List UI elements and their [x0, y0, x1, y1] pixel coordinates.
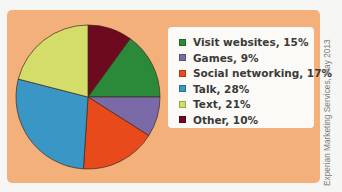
legend-label: Social networking, 17% — [193, 67, 332, 79]
legend-swatch-icon — [179, 101, 186, 108]
legend-label: Visit websites, 15% — [193, 36, 308, 48]
legend-item-talk: Talk, 28% — [179, 82, 249, 96]
legend-swatch-icon — [179, 54, 186, 61]
legend-swatch-icon — [179, 85, 186, 92]
source-credit: Experian Marketing Services, May 2013 — [322, 39, 332, 186]
legend: Visit websites, 15% Games, 9% Social net… — [168, 27, 314, 128]
legend-label: Text, 21% — [193, 98, 250, 110]
legend-item-social-networking: Social networking, 17% — [179, 66, 332, 80]
legend-item-other: Other, 10% — [179, 113, 258, 127]
legend-label: Talk, 28% — [193, 83, 249, 95]
legend-item-visit-websites: Visit websites, 15% — [179, 35, 308, 49]
legend-label: Games, 9% — [193, 52, 259, 64]
legend-item-games: Games, 9% — [179, 51, 259, 65]
legend-swatch-icon — [179, 70, 186, 77]
legend-item-text: Text, 21% — [179, 97, 250, 111]
legend-swatch-icon — [179, 116, 186, 123]
legend-label: Other, 10% — [193, 114, 258, 126]
legend-swatch-icon — [179, 39, 186, 46]
